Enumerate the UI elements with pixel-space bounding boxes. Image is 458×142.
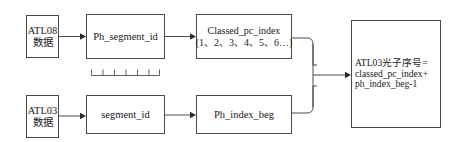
node-atl08-data: ATL08 数据	[26, 15, 59, 58]
node-ph-index-beg-label: Ph_index_beg	[214, 109, 274, 121]
node-ph-segment-id-label: Ph_segment_id	[93, 31, 158, 43]
flowchart-diagram: ATL08 数据 Ph_segment_id Classed_pc_inde	[0, 0, 458, 142]
node-result-formula: ATL03光子序号= classed_pc_index+ ph_index_be…	[351, 20, 441, 128]
node-atl03-line1: ATL03	[28, 105, 58, 117]
node-classed-pc-index-label: Classed_pc_index	[208, 25, 281, 36]
node-result-line3: ph_index_beg-1	[355, 79, 417, 90]
node-atl03-data: ATL03 数据	[26, 95, 59, 138]
node-segment-id-label: segment_id	[101, 109, 149, 121]
node-segment-id: segment_id	[86, 95, 165, 134]
node-classed-pc-index-values: (1、2、3、4、5、6…)	[196, 37, 293, 48]
node-atl03-line2: 数据	[33, 117, 53, 129]
node-ph-segment-id: Ph_segment_id	[86, 14, 165, 59]
node-classed-pc-index: Classed_pc_index (1、2、3、4、5、6…)	[196, 14, 292, 59]
node-atl08-line1: ATL08	[28, 25, 58, 37]
node-ph-index-beg: Ph_index_beg	[196, 95, 292, 134]
node-atl08-line2: 数据	[33, 37, 53, 49]
comb-ruler-icon	[91, 44, 160, 52]
node-result-line1: ATL03光子序号=	[355, 58, 428, 69]
staple-bracket-icon	[117, 120, 135, 126]
